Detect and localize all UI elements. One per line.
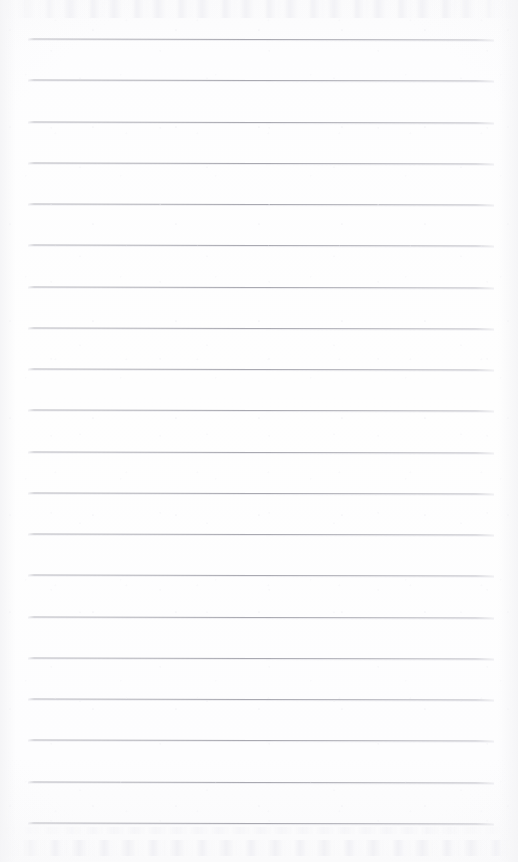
ruled-line (28, 782, 494, 784)
ruled-line (28, 658, 494, 660)
ruled-line (28, 328, 494, 330)
scanned-page (0, 0, 518, 862)
ruled-line (28, 493, 494, 495)
ruled-line (28, 823, 494, 825)
ruled-line (28, 245, 494, 247)
ruled-line (28, 699, 494, 701)
ruled-line (28, 452, 494, 454)
ruled-line (28, 39, 494, 41)
ruled-line (28, 575, 494, 577)
ruled-line (28, 204, 494, 206)
ruled-line (28, 617, 494, 619)
ruled-line (28, 122, 494, 124)
ruled-lines-group (0, 0, 518, 862)
ruled-line (28, 534, 494, 536)
ruled-line (28, 369, 494, 371)
ruled-line (28, 163, 494, 165)
ruled-line (28, 287, 494, 289)
ruled-line (28, 740, 494, 742)
ruled-line (28, 80, 494, 82)
ruled-line (28, 410, 494, 412)
